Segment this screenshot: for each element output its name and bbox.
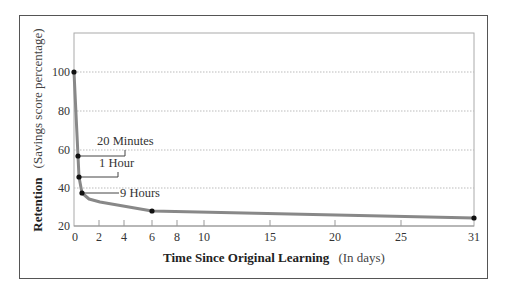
annotation-20-minutes: 20 Minutes [97, 134, 154, 148]
point-9-hours [79, 190, 84, 195]
x-tick-labels: 0 2 4 6 8 10 15 20 25 31 [72, 230, 480, 244]
x-tick-4: 4 [121, 230, 127, 244]
y-tick-40: 40 [58, 181, 70, 195]
point-31-days [471, 215, 476, 220]
x-tick-25: 25 [395, 230, 407, 244]
point-0-days [71, 69, 76, 74]
annotation-1-hour: 1 Hour [99, 156, 135, 170]
x-axis-title: Time Since Original Learning (In days) [163, 247, 385, 266]
gridlines [74, 72, 474, 188]
point-1-hour [76, 174, 81, 179]
point-20-minutes [75, 153, 80, 158]
y-tick-labels: 20 40 60 80 100 [52, 65, 70, 233]
y-axis-title: Retention (Savings score percentage) [27, 28, 46, 231]
annotation-9-hours: 9 Hours [120, 186, 160, 200]
x-axis-title-unit: (In days) [338, 250, 385, 265]
x-tick-8: 8 [174, 230, 180, 244]
y-axis-title-main: Retention [30, 177, 45, 232]
y-tick-20: 20 [58, 219, 70, 233]
x-tick-15: 15 [264, 230, 276, 244]
x-tick-0: 0 [72, 230, 78, 244]
x-tick-6: 6 [149, 230, 155, 244]
y-axis-title-unit: (Savings score percentage) [30, 28, 45, 168]
y-tick-60: 60 [58, 143, 70, 157]
x-tick-10: 10 [198, 230, 210, 244]
y-tick-100: 100 [52, 65, 70, 79]
x-axis-title-main: Time Since Original Learning [163, 250, 330, 265]
retention-chart: 0 2 4 6 8 10 15 20 25 31 20 40 60 80 100… [0, 0, 506, 293]
x-tick-31: 31 [468, 230, 480, 244]
x-ticks [99, 220, 401, 226]
point-6-days [149, 208, 154, 213]
x-tick-2: 2 [96, 230, 102, 244]
y-tick-80: 80 [58, 104, 70, 118]
x-tick-20: 20 [329, 230, 341, 244]
